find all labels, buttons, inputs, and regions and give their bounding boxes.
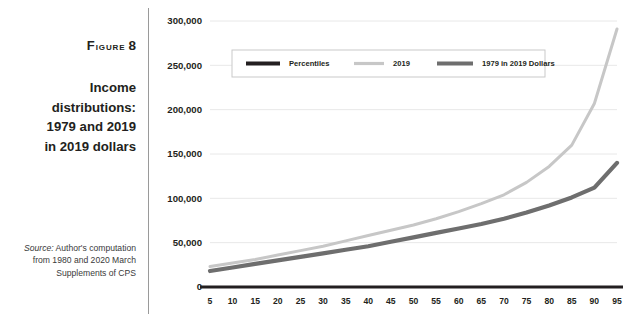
x-axis-tick-label: 55 bbox=[431, 296, 441, 306]
legend-label-1979-in-2019-dollars: 1979 in 2019 Dollars bbox=[482, 59, 555, 68]
y-axis-tick-label: 100,000 bbox=[167, 193, 202, 204]
x-axis-tick-label: 15 bbox=[250, 296, 260, 306]
x-axis-tick-label: 10 bbox=[228, 296, 238, 306]
source-label: Source: bbox=[24, 243, 54, 253]
x-axis-tick-label: 35 bbox=[341, 296, 351, 306]
x-axis-tick-label: 40 bbox=[363, 296, 373, 306]
figure-title-line-1: Income bbox=[12, 78, 136, 98]
x-axis-tick-label: 80 bbox=[544, 296, 554, 306]
figure-title-line-3: 1979 and 2019 bbox=[12, 117, 136, 137]
caption-panel: Figure8 Income distributions: 1979 and 2… bbox=[0, 0, 148, 322]
x-axis-tick-label: 60 bbox=[454, 296, 464, 306]
x-axis-tick-label: 95 bbox=[612, 296, 622, 306]
series-line-1979-in-2019-dollars bbox=[210, 163, 617, 271]
figure-label-number: 8 bbox=[128, 38, 136, 53]
y-axis-tick-label: 150,000 bbox=[167, 148, 202, 159]
figure-title-line-2: distributions: bbox=[12, 98, 136, 118]
y-axis-tick-label: 200,000 bbox=[167, 104, 202, 115]
chart-legend: Percentiles20191979 in 2019 Dollars bbox=[232, 50, 555, 77]
y-axis-tick-label: 250,000 bbox=[167, 60, 202, 71]
x-axis-tick-label: 90 bbox=[590, 296, 600, 306]
y-axis-tick-label: 300,000 bbox=[167, 15, 202, 26]
figure-source-note: Source: Author's computation from 1980 a… bbox=[12, 242, 136, 279]
y-axis-tick-label: 50,000 bbox=[173, 237, 202, 248]
figure-label-prefix: Figure bbox=[87, 40, 126, 52]
y-axis-tick-labels: 050,000100,000150,000200,000250,000300,0… bbox=[167, 15, 202, 292]
x-axis-tick-label: 20 bbox=[273, 296, 283, 306]
legend-label-percentiles: Percentiles bbox=[289, 59, 330, 68]
x-axis-tick-label: 30 bbox=[318, 296, 328, 306]
page-title: Income distributions: 1979 and 2019 in 2… bbox=[12, 78, 136, 156]
figure-title-line-4: in 2019 dollars bbox=[12, 137, 136, 157]
x-axis-tick-label: 85 bbox=[567, 296, 577, 306]
x-axis-tick-labels: 5101520253035404550556065707580859095 bbox=[208, 296, 622, 306]
x-axis-tick-label: 50 bbox=[409, 296, 419, 306]
x-axis-tick-label: 75 bbox=[522, 296, 532, 306]
x-axis-tick-label: 70 bbox=[499, 296, 509, 306]
line-chart: 050,000100,000150,000200,000250,000300,0… bbox=[148, 0, 625, 322]
chart-panel: 050,000100,000150,000200,000250,000300,0… bbox=[148, 0, 625, 322]
x-axis-tick-label: 25 bbox=[296, 296, 306, 306]
x-axis-tick-label: 5 bbox=[208, 296, 213, 306]
figure-label: Figure8 bbox=[87, 38, 136, 53]
x-axis-tick-label: 45 bbox=[386, 296, 396, 306]
legend-label-2019: 2019 bbox=[393, 59, 410, 68]
figure-container: Figure8 Income distributions: 1979 and 2… bbox=[0, 0, 625, 322]
x-axis-tick-label: 65 bbox=[477, 296, 487, 306]
